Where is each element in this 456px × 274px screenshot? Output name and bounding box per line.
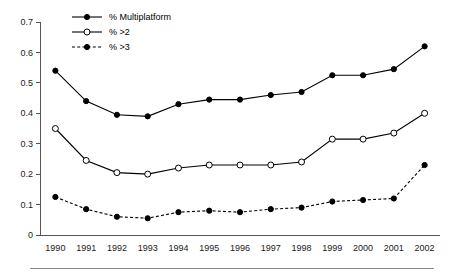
data-point: [176, 210, 181, 215]
data-point: [53, 68, 58, 73]
data-point: [299, 89, 304, 94]
data-point: [330, 73, 335, 78]
x-tick-label: 2000: [353, 243, 373, 253]
data-point: [360, 197, 365, 202]
y-tick-label: 0.5: [20, 78, 33, 88]
data-point: [299, 159, 305, 165]
data-point: [422, 162, 427, 167]
data-point: [84, 207, 89, 212]
data-point: [268, 162, 274, 168]
chart-legend: % Multiplatform% >2% >3: [72, 12, 171, 52]
legend-marker-2: [84, 44, 89, 49]
series-line-0: [55, 46, 424, 116]
data-point: [176, 102, 181, 107]
data-point: [145, 114, 150, 119]
data-point: [175, 165, 181, 171]
x-tick-label: 1995: [199, 243, 219, 253]
line-chart: 00.10.20.30.40.50.60.7 19901991199219931…: [0, 0, 456, 274]
data-point: [237, 210, 242, 215]
legend-marker-0: [84, 14, 89, 19]
y-tick-label: 0.3: [20, 139, 33, 149]
data-point: [52, 126, 58, 132]
legend-label-0: % Multiplatform: [109, 12, 171, 22]
data-point: [329, 136, 335, 142]
data-point: [114, 214, 119, 219]
data-point: [114, 112, 119, 117]
data-point: [391, 196, 396, 201]
data-point: [206, 162, 212, 168]
y-tick-label: 0: [28, 230, 33, 240]
series-layer: [52, 44, 427, 221]
y-tick-label: 0.2: [20, 169, 33, 179]
chart-figure: 00.10.20.30.40.50.60.7 19901991199219931…: [0, 0, 456, 274]
data-point: [53, 194, 58, 199]
y-axis: 00.10.20.30.40.50.60.7: [20, 17, 40, 240]
legend-marker-1: [84, 29, 90, 35]
x-tick-label: 1992: [107, 243, 127, 253]
data-point: [422, 110, 428, 116]
x-tick-label: 1996: [230, 243, 250, 253]
x-tick-label: 1994: [168, 243, 188, 253]
data-point: [145, 171, 151, 177]
y-tick-label: 0.6: [20, 48, 33, 58]
y-tick-label: 0.7: [20, 17, 33, 27]
data-point: [299, 205, 304, 210]
data-point: [237, 97, 242, 102]
data-point: [145, 216, 150, 221]
x-tick-label: 1991: [76, 243, 96, 253]
x-axis: 1990199119921993199419951996199719981999…: [40, 235, 440, 253]
data-point: [391, 130, 397, 136]
data-point: [268, 92, 273, 97]
x-tick-label: 1997: [261, 243, 281, 253]
data-point: [207, 208, 212, 213]
legend-label-2: % >3: [109, 42, 130, 52]
data-point: [83, 157, 89, 163]
data-point: [422, 44, 427, 49]
x-tick-label: 2002: [415, 243, 435, 253]
data-point: [114, 170, 120, 176]
data-point: [330, 199, 335, 204]
data-point: [268, 207, 273, 212]
y-tick-label: 0.4: [20, 108, 33, 118]
x-tick-label: 2001: [384, 243, 404, 253]
data-point: [391, 67, 396, 72]
data-point: [84, 99, 89, 104]
data-point: [360, 73, 365, 78]
data-point: [237, 162, 243, 168]
x-tick-label: 1999: [322, 243, 342, 253]
y-tick-label: 0.1: [20, 200, 33, 210]
data-point: [360, 136, 366, 142]
data-point: [207, 97, 212, 102]
legend-label-1: % >2: [109, 27, 130, 37]
x-tick-label: 1993: [138, 243, 158, 253]
x-tick-label: 1998: [292, 243, 312, 253]
x-tick-label: 1990: [45, 243, 65, 253]
